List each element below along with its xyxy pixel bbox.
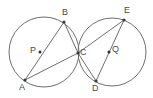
geometry-diagram: A B C D E P Q	[0, 0, 153, 98]
label-center-p: P	[30, 46, 36, 55]
segment-de	[96, 20, 124, 81]
label-point-b: B	[62, 8, 68, 17]
center-p-dot	[39, 51, 42, 54]
point-b-dot	[62, 20, 65, 23]
label-point-a: A	[19, 83, 25, 92]
label-center-q: Q	[112, 45, 119, 54]
label-point-d: D	[92, 84, 99, 93]
point-e-dot	[122, 18, 125, 21]
center-q-dot	[108, 51, 111, 54]
segment-cd	[78, 53, 96, 81]
label-point-e: E	[124, 6, 130, 15]
label-point-c: C	[80, 48, 87, 57]
